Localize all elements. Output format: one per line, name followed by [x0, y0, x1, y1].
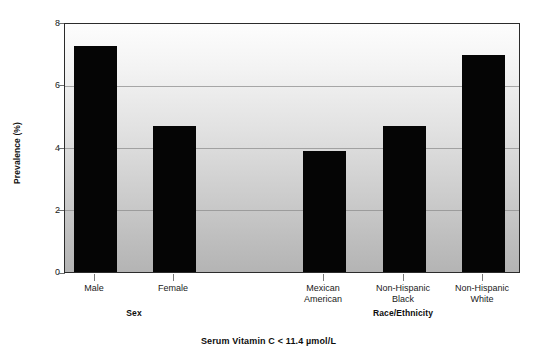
y-tick-mark-0 — [58, 273, 65, 274]
bar-mexican-american — [303, 151, 346, 272]
x-tick-mark-non-hispanic-black — [403, 274, 404, 281]
chart-caption: Serum Vitamin C < 11.4 µmol/L — [0, 336, 537, 346]
gridline-4 — [65, 148, 519, 149]
y-axis-title: Prevalence (%) — [12, 73, 22, 233]
y-tick-label-0: 0 — [38, 268, 60, 277]
x-tick-label-non-hispanic-white: Non-Hispanic White — [427, 283, 537, 305]
gridline-2 — [65, 210, 519, 211]
y-tick-label-4: 4 — [38, 144, 60, 153]
x-tick-mark-male — [94, 274, 95, 281]
gridline-6 — [65, 86, 519, 87]
x-tick-label-female-line1: Female — [118, 283, 228, 294]
bar-non-hispanic-white — [462, 55, 505, 272]
y-tick-label-6: 6 — [38, 81, 60, 90]
x-tick-mark-non-hispanic-white — [482, 274, 483, 281]
y-tick-label-2: 2 — [38, 206, 60, 215]
group-label-sex: Sex — [54, 308, 214, 318]
bar-chart-figure: Prevalence (%) 8 6 4 2 0 Male Female Mex… — [0, 0, 537, 354]
y-axis-ticks: 8 6 4 2 0 — [34, 0, 60, 354]
bar-non-hispanic-black — [383, 126, 426, 272]
x-tick-label-female: Female — [118, 283, 228, 294]
plot-area — [64, 23, 520, 273]
x-tick-label-non-hispanic-white-line2: White — [427, 294, 537, 305]
bar-male — [74, 46, 117, 272]
x-tick-mark-female — [173, 274, 174, 281]
y-tick-label-8: 8 — [38, 19, 60, 28]
bar-female — [153, 126, 196, 272]
x-tick-label-non-hispanic-white-line1: Non-Hispanic — [427, 283, 537, 294]
x-tick-mark-mexican-american — [323, 274, 324, 281]
group-label-race-ethnicity: Race/Ethnicity — [323, 308, 483, 318]
